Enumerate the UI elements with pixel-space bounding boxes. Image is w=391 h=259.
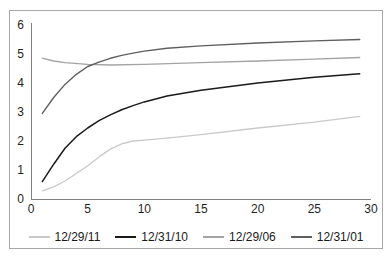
y-tick-label: 5: [17, 47, 24, 61]
legend-item-12-31-10: 12/31/10: [115, 230, 188, 244]
legend-item-12-31-01: 12/31/01: [291, 230, 364, 244]
x-tick-label: 30: [364, 202, 378, 216]
x-tick-label: 20: [251, 202, 265, 216]
legend-label: 12/31/10: [141, 230, 188, 244]
legend-line-swatch: [291, 236, 312, 238]
x-axis-tick-labels: 051015202530: [28, 202, 378, 216]
y-tick-label: 3: [17, 105, 24, 119]
legend-line-swatch: [115, 236, 136, 238]
legend-line-swatch: [29, 236, 50, 238]
legend-label: 12/29/06: [229, 230, 276, 244]
axes: [31, 23, 371, 200]
series-line-12-31-01: [42, 40, 359, 114]
y-tick-label: 1: [17, 163, 24, 177]
chart-canvas: 0123456 051015202530: [0, 0, 391, 259]
legend-line-swatch: [203, 236, 224, 238]
x-tick-label: 0: [28, 202, 35, 216]
y-tick-label: 0: [17, 192, 24, 206]
chart-legend: 12/29/1112/31/1012/29/0612/31/01: [10, 229, 382, 245]
x-tick-label: 25: [308, 202, 322, 216]
legend-label: 12/31/01: [317, 230, 364, 244]
series-line-12-31-10: [42, 74, 359, 182]
y-axis-tick-labels: 0123456: [17, 18, 24, 206]
y-tick-label: 6: [17, 18, 24, 32]
yield-curve-chart: 0123456 051015202530 12/29/1112/31/1012/…: [0, 0, 391, 259]
x-tick-label: 5: [84, 202, 91, 216]
y-tick-label: 2: [17, 134, 24, 148]
legend-item-12-29-06: 12/29/06: [203, 230, 276, 244]
series-line-12-29-06: [42, 58, 359, 66]
legend-item-12-29-11: 12/29/11: [29, 230, 101, 244]
series-lines: [42, 40, 359, 191]
x-tick-label: 15: [194, 202, 208, 216]
y-tick-label: 4: [17, 76, 24, 90]
x-tick-label: 10: [138, 202, 152, 216]
legend-label: 12/29/11: [55, 230, 101, 244]
series-line-12-29-11: [42, 116, 359, 191]
